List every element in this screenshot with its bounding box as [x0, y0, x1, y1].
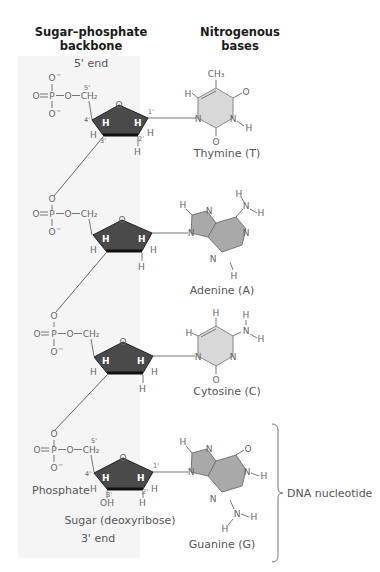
svg-text:H: H	[90, 245, 97, 255]
base-adenine: N N H N H H N N H	[180, 189, 265, 281]
svg-text:N: N	[244, 467, 251, 477]
svg-text:CH₂: CH₂	[81, 209, 98, 219]
svg-text:O: O	[119, 453, 126, 463]
svg-text:1': 1'	[148, 108, 154, 116]
svg-text:H: H	[231, 271, 238, 281]
svg-text:O: O	[32, 91, 39, 101]
svg-text:−: −	[56, 225, 61, 233]
base-thymine: CH₃ O H N N H O	[185, 69, 253, 147]
svg-text:H: H	[258, 334, 265, 344]
base-cytosine: H H N H H N N O	[186, 308, 265, 385]
svg-text:CH₂: CH₂	[81, 91, 98, 101]
svg-text:H: H	[102, 118, 110, 128]
svg-text:O: O	[50, 463, 57, 473]
svg-text:2': 2'	[138, 135, 144, 143]
svg-text:5': 5'	[84, 84, 90, 92]
svg-text:H: H	[147, 128, 154, 138]
svg-text:N: N	[243, 201, 250, 211]
svg-text:N: N	[195, 352, 202, 362]
svg-text:H: H	[185, 89, 192, 99]
svg-text:H: H	[258, 208, 265, 218]
base-guanine: N N H O N H N N H H	[180, 437, 268, 534]
svg-text:H: H	[102, 473, 110, 483]
svg-text:−: −	[56, 107, 61, 115]
base-label-guanine: Guanine (G)	[189, 538, 256, 551]
svg-text:CH₂: CH₂	[83, 445, 100, 455]
svg-text:CH₃: CH₃	[208, 69, 225, 79]
svg-text:O: O	[66, 445, 73, 455]
svg-text:H: H	[134, 147, 141, 157]
svg-text:N: N	[188, 467, 195, 477]
svg-text:H: H	[90, 367, 97, 377]
svg-text:O: O	[118, 215, 125, 225]
svg-text:H: H	[137, 356, 145, 366]
svg-text:H: H	[90, 130, 97, 140]
svg-text:O: O	[119, 337, 126, 347]
svg-text:P: P	[51, 329, 57, 339]
svg-text:N: N	[243, 228, 250, 238]
svg-text:H: H	[213, 308, 220, 318]
svg-text:H: H	[151, 367, 158, 377]
phosphate-label: Phosphate	[32, 484, 90, 497]
svg-text:O: O	[50, 347, 57, 357]
svg-text:H: H	[222, 524, 229, 534]
svg-text:O: O	[115, 100, 122, 110]
base-label-thymine: Thymine (T)	[193, 147, 261, 160]
svg-text:P: P	[49, 209, 55, 219]
svg-text:4': 4'	[84, 116, 90, 124]
svg-text:H: H	[151, 484, 158, 494]
svg-text:H: H	[90, 484, 97, 494]
svg-text:O: O	[212, 375, 219, 385]
svg-text:N: N	[206, 206, 213, 216]
svg-text:O: O	[33, 445, 40, 455]
header-backbone-line2: backbone	[60, 39, 123, 53]
nucleotide-bracket	[272, 424, 283, 562]
svg-text:H: H	[134, 118, 142, 128]
svg-text:N: N	[195, 114, 202, 124]
svg-text:O: O	[48, 227, 55, 237]
svg-text:N: N	[230, 114, 237, 124]
header-backbone-line1: Sugar–phosphate	[35, 25, 148, 39]
svg-text:H: H	[251, 512, 258, 522]
svg-text:CH₂: CH₂	[83, 329, 100, 339]
svg-text:H: H	[150, 245, 157, 255]
svg-text:H: H	[243, 310, 250, 320]
svg-text:P: P	[49, 91, 55, 101]
svg-text:H: H	[139, 384, 146, 394]
svg-text:−: −	[56, 71, 61, 79]
svg-text:N: N	[234, 509, 241, 519]
svg-text:OH: OH	[100, 498, 114, 508]
svg-text:N: N	[230, 352, 237, 362]
svg-text:O: O	[50, 429, 57, 439]
svg-text:N: N	[188, 228, 195, 238]
svg-text:4': 4'	[85, 470, 91, 478]
svg-text:N: N	[243, 326, 250, 336]
svg-text:1': 1'	[153, 462, 159, 470]
header-bases-line2: bases	[221, 39, 259, 53]
dna-nucleotide-diagram: Sugar–phosphate backbone Nitrogenous bas…	[0, 0, 380, 572]
svg-text:H: H	[246, 123, 253, 133]
svg-text:H: H	[180, 437, 187, 447]
svg-text:O: O	[32, 209, 39, 219]
svg-text:O: O	[242, 87, 249, 97]
header-bases-line1: Nitrogenous	[200, 25, 280, 39]
svg-text:O: O	[244, 444, 251, 454]
svg-text:H: H	[102, 234, 110, 244]
svg-text:O: O	[48, 109, 55, 119]
svg-text:H: H	[137, 473, 145, 483]
svg-text:O: O	[33, 329, 40, 339]
base-label-adenine: Adenine (A)	[190, 284, 254, 297]
svg-text:H: H	[139, 498, 146, 508]
svg-text:O: O	[66, 329, 73, 339]
three-prime-end-label: 3' end	[81, 532, 115, 545]
nucleotide-label: DNA nucleotide	[287, 487, 373, 500]
svg-text:−: −	[58, 345, 63, 353]
svg-text:H: H	[261, 471, 268, 481]
svg-text:5': 5'	[91, 437, 97, 445]
svg-text:H: H	[236, 189, 243, 199]
svg-text:O: O	[212, 137, 219, 147]
svg-text:H: H	[138, 262, 145, 272]
svg-text:N: N	[210, 254, 217, 264]
svg-text:N: N	[210, 494, 217, 504]
svg-text:N: N	[206, 444, 213, 454]
